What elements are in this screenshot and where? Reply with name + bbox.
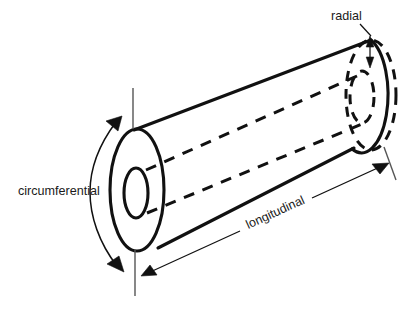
longitudinal-dimension-line-right xyxy=(312,166,382,198)
cylinder-diagram: Cylinder coordinate directions Isometric… xyxy=(0,0,420,320)
diagram-canvas: Cylinder coordinate directions Isometric… xyxy=(0,0,420,320)
circumferential-label: circumferential xyxy=(18,184,100,198)
cylinder-body xyxy=(107,40,396,287)
radial-leader-line xyxy=(360,24,371,36)
longitudinal-arrow-head-right xyxy=(372,163,389,174)
radial-label: radial xyxy=(331,9,362,23)
circumferential-arrow-head-top xyxy=(106,116,122,131)
